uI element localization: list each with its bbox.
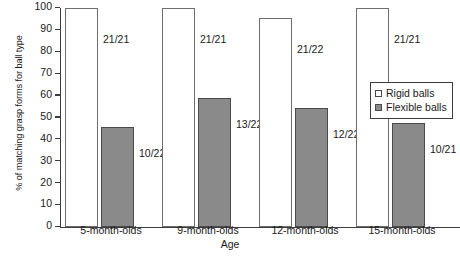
y-tick-label-40: 40 xyxy=(40,132,52,144)
bar-rigid-2 xyxy=(259,18,292,227)
rigid-swatch-icon xyxy=(375,90,382,97)
caption-remnant xyxy=(0,262,460,271)
x-category-label-3: 15-month-olds xyxy=(344,224,460,236)
legend-item-rigid: Rigid balls xyxy=(375,86,447,100)
bar-flexible-0 xyxy=(101,127,134,227)
bar-flexible-1 xyxy=(198,98,231,227)
chart-legend: Rigid balls Flexible balls xyxy=(370,82,453,119)
y-tick-label-90: 90 xyxy=(40,22,52,34)
y-tick-label-80: 80 xyxy=(40,44,52,56)
y-tick-label-10: 10 xyxy=(40,197,52,209)
legend-item-flexible: Flexible balls xyxy=(375,100,447,114)
bar-chart-figure: % of matching grasp forms for ball type … xyxy=(0,0,460,271)
y-axis-line xyxy=(60,8,61,227)
bar-rigid-1 xyxy=(162,8,195,227)
y-tick-80: 80 xyxy=(55,51,60,52)
bar-flexible-2 xyxy=(295,108,328,227)
y-tick-40: 40 xyxy=(55,138,60,139)
y-tick-label-20: 20 xyxy=(40,176,52,188)
y-tick-10: 10 xyxy=(55,204,60,205)
bar-flexible-3 xyxy=(392,123,425,227)
y-tick-label-70: 70 xyxy=(40,66,52,78)
y-tick-30: 30 xyxy=(55,160,60,161)
y-tick-90: 90 xyxy=(55,29,60,30)
x-axis-title: Age xyxy=(60,238,400,250)
y-tick-label-60: 60 xyxy=(40,88,52,100)
bar-rigid-0 xyxy=(65,8,98,227)
bar-value-label: 21/21 xyxy=(200,33,226,45)
bar-value-label: 21/21 xyxy=(394,33,420,45)
y-tick-label-30: 30 xyxy=(40,154,52,166)
y-tick-100: 100 xyxy=(55,7,60,8)
legend-label-flexible: Flexible balls xyxy=(386,101,447,113)
y-tick-label-100: 100 xyxy=(34,0,52,12)
bar-value-label: 21/22 xyxy=(297,43,323,55)
y-tick-label-50: 50 xyxy=(40,110,52,122)
y-tick-label-0: 0 xyxy=(46,219,52,231)
legend-label-rigid: Rigid balls xyxy=(386,87,434,99)
y-tick-50: 50 xyxy=(55,116,60,117)
y-tick-60: 60 xyxy=(55,94,60,95)
y-tick-70: 70 xyxy=(55,73,60,74)
bar-value-label: 21/21 xyxy=(103,33,129,45)
y-tick-20: 20 xyxy=(55,182,60,183)
bar-value-label: 10/21 xyxy=(430,143,456,155)
flexible-swatch-icon xyxy=(375,104,382,111)
y-axis-title: % of matching grasp forms for ball type xyxy=(14,8,24,218)
